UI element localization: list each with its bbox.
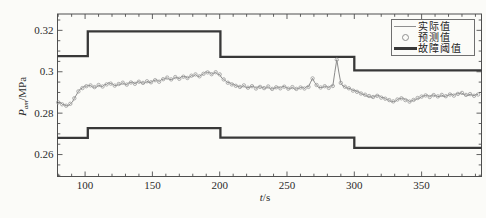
y-axis-unit: /MPa	[16, 77, 28, 101]
legend-item-actual: 实际值	[392, 21, 474, 32]
y-tick-label: 0.28	[34, 107, 54, 119]
x-tick-label: 200	[211, 179, 228, 191]
x-tick-label: 150	[144, 179, 161, 191]
legend-item-threshold: 故障阈值	[392, 43, 474, 54]
y-axis-symbol: P	[16, 109, 28, 116]
legend-label-predicted: 预测值	[418, 33, 451, 43]
x-tick-label: 100	[77, 179, 94, 191]
chart-figure: 1001502002503003500.260.280.30.32 Pam/MP…	[0, 0, 486, 218]
threshold-line-swatch	[392, 47, 418, 50]
legend-label-actual: 实际值	[418, 22, 451, 32]
actual-line-swatch	[392, 26, 418, 27]
y-tick-label: 0.3	[40, 65, 54, 77]
legend: 实际值 预测值 故障阈值	[391, 19, 475, 56]
x-tick-label: 300	[346, 179, 363, 191]
predicted-value-markers	[57, 58, 480, 107]
y-axis-subscript: am	[22, 101, 30, 110]
x-tick-label: 250	[279, 179, 296, 191]
y-tick-label: 0.26	[34, 148, 54, 160]
x-axis-unit: /s	[263, 191, 270, 203]
x-tick-label: 350	[413, 179, 430, 191]
predicted-marker-swatch	[392, 34, 418, 41]
y-axis-label: Pam/MPa	[16, 37, 31, 157]
legend-item-predicted: 预测值	[392, 32, 474, 43]
x-axis-label: t/s	[240, 191, 290, 203]
legend-label-threshold: 故障阈值	[418, 44, 462, 54]
y-tick-label: 0.32	[34, 24, 53, 36]
threshold-step-line	[58, 128, 482, 148]
